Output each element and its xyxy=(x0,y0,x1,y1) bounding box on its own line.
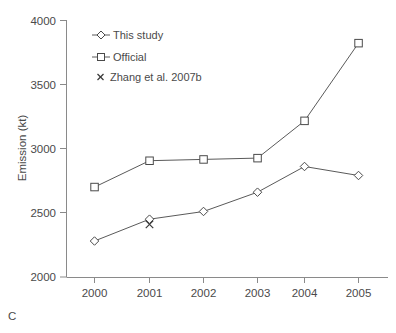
data-point-marker xyxy=(254,154,261,162)
x-tick-label-2000: 2000 xyxy=(82,287,108,299)
data-point-marker xyxy=(91,183,99,191)
panel-label: C xyxy=(8,310,16,322)
data-point-marker xyxy=(355,39,363,47)
legend-label-official: Official xyxy=(113,51,146,63)
legend-entry-zhang: Zhang et al. 2007b xyxy=(98,71,202,83)
y-tick-label-3500: 3500 xyxy=(30,79,56,91)
x-tick-label-2001: 2001 xyxy=(137,287,163,299)
legend-label-this-study: This study xyxy=(113,29,164,41)
y-axis-title: Emission (kt) xyxy=(16,115,28,182)
y-tick-label-4000: 4000 xyxy=(30,15,56,27)
data-point-marker xyxy=(200,156,208,164)
figure-panel-c: 4000 3500 3000 2500 2000 Emission (kt) 2… xyxy=(0,0,396,333)
x-tick-label-2003: 2003 xyxy=(245,287,271,299)
legend-label-zhang: Zhang et al. 2007b xyxy=(110,71,202,83)
y-tick-label-2500: 2500 xyxy=(30,207,56,219)
data-point-marker xyxy=(146,157,154,165)
emission-line-chart: 4000 3500 3000 2500 2000 Emission (kt) 2… xyxy=(0,0,396,333)
data-point-marker xyxy=(301,117,309,125)
y-tick-label-3000: 3000 xyxy=(30,143,56,155)
x-tick-label-2002: 2002 xyxy=(191,287,217,299)
x-tick-label-2005: 2005 xyxy=(346,287,372,299)
y-tick-label-2000: 2000 xyxy=(30,271,56,283)
x-tick-label-2004: 2004 xyxy=(292,287,318,299)
chart-background xyxy=(0,0,396,333)
